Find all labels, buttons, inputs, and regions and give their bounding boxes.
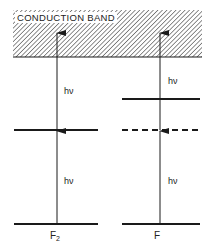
f2-upper-photon-label: hν xyxy=(64,86,74,96)
f-lower-photon-label: hν xyxy=(168,176,178,186)
conduction-band-label: CONDUCTION BAND xyxy=(15,12,117,23)
f-upper-photon-label: hν xyxy=(168,76,178,86)
f2-column-label: F2 xyxy=(50,230,60,242)
f2-label-subscript: 2 xyxy=(56,235,60,242)
energy-level-diagram xyxy=(0,0,216,249)
f-column-label: F xyxy=(154,230,160,241)
f-label-main: F xyxy=(154,230,160,241)
f2-lower-photon-label: hν xyxy=(64,176,74,186)
